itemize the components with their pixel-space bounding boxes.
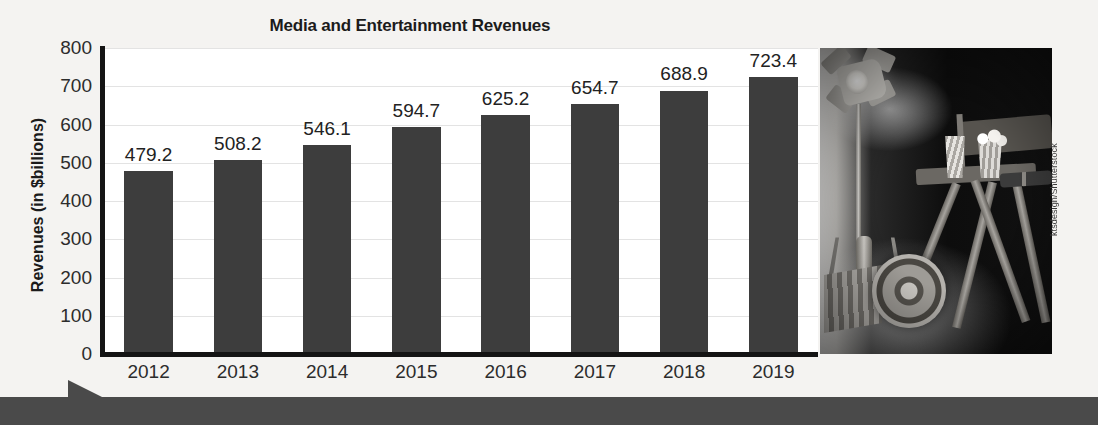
x-tick-label: 2013 xyxy=(193,362,282,381)
bar-value-label: 546.1 xyxy=(283,119,372,138)
bar-value-label: 723.4 xyxy=(729,51,818,70)
bottom-banner xyxy=(0,397,1098,425)
bar-value-label: 479.2 xyxy=(104,145,193,164)
y-tick-label: 0 xyxy=(30,344,92,363)
y-tick-label: 100 xyxy=(30,306,92,325)
chart-title: Media and Entertainment Revenues xyxy=(0,16,820,36)
y-tick-label: 500 xyxy=(30,153,92,172)
bar-value-label: 654.7 xyxy=(550,78,639,97)
chart-figure: Media and Entertainment Revenues Revenue… xyxy=(0,0,1098,398)
bar-value-label: 688.9 xyxy=(640,64,729,83)
photo-credit: ktsdesign/Shutterstock xyxy=(1049,106,1059,236)
y-tick-label: 300 xyxy=(30,229,92,248)
bar-value-label: 508.2 xyxy=(193,134,282,153)
film-set-photo xyxy=(820,48,1052,354)
bar-value-label: 594.7 xyxy=(372,101,461,120)
bar-value-label: 625.2 xyxy=(461,89,550,108)
x-tick-label: 2016 xyxy=(461,362,550,381)
banner-notch-arrow xyxy=(68,380,104,398)
x-tick-label: 2014 xyxy=(283,362,372,381)
x-tick-label: 2015 xyxy=(372,362,461,381)
y-tick-label: 700 xyxy=(30,76,92,95)
y-tick-label: 600 xyxy=(30,115,92,134)
y-tick-label: 800 xyxy=(30,38,92,57)
y-tick-label: 200 xyxy=(30,268,92,287)
x-tick-label: 2018 xyxy=(640,362,729,381)
x-tick-label: 2012 xyxy=(104,362,193,381)
photo-vignette xyxy=(820,48,1052,354)
y-tick-label: 400 xyxy=(30,191,92,210)
x-tick-label: 2019 xyxy=(729,362,818,381)
x-tick-label: 2017 xyxy=(550,362,639,381)
